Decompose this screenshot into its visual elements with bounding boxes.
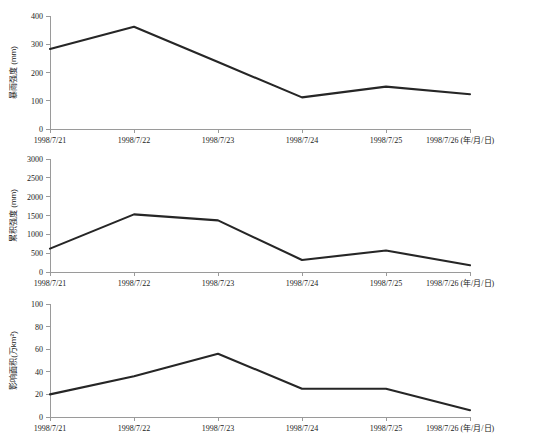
x-tick-label: 1998/7/25 (370, 279, 402, 288)
data-series-line (50, 214, 470, 265)
rainfall-time-series-figure: 01002003004001998/7/211998/7/221998/7/23… (0, 0, 555, 445)
y-axis-label: 影响面积(万km²) (8, 331, 18, 390)
y-tick-label: 20 (35, 390, 43, 399)
y-tick-label: 3000 (27, 155, 43, 164)
x-tick-label: 1998/7/22 (118, 424, 150, 433)
x-tick-label: 1998/7/23 (202, 424, 234, 433)
y-tick-label: 0 (39, 125, 43, 134)
chart-panel-rain-intensity: 01002003004001998/7/211998/7/221998/7/23… (0, 0, 555, 148)
y-tick-label: 1000 (27, 230, 43, 239)
x-tick-label: 1998/7/24 (286, 424, 318, 433)
x-tick-label: 1998/7/23 (202, 279, 234, 288)
y-tick-label: 60 (35, 345, 43, 354)
y-tick-label: 0 (39, 413, 43, 422)
data-series-line (50, 27, 470, 98)
y-tick-label: 100 (31, 300, 43, 309)
y-tick-label: 2000 (27, 193, 43, 202)
x-tick-label: 1998/7/26 (年/月/日) (426, 278, 495, 288)
chart-panel-affected-area: 0204060801001998/7/211998/7/221998/7/231… (0, 288, 555, 436)
data-series-line (50, 354, 470, 411)
y-tick-label: 2500 (27, 174, 43, 183)
y-tick-label: 40 (35, 368, 43, 377)
y-tick-label: 1500 (27, 212, 43, 221)
y-tick-label: 500 (31, 249, 43, 258)
y-tick-label: 300 (31, 40, 43, 49)
x-tick-label: 1998/7/22 (118, 279, 150, 288)
y-axis-label: 累积强度 (mm) (8, 189, 18, 242)
x-tick-label: 1998/7/21 (34, 279, 66, 288)
y-tick-label: 400 (31, 12, 43, 21)
x-tick-label: 1998/7/25 (370, 424, 402, 433)
y-tick-label: 0 (39, 268, 43, 277)
y-tick-label: 100 (31, 97, 43, 106)
x-tick-label: 1998/7/24 (286, 279, 318, 288)
y-tick-label: 80 (35, 323, 43, 332)
y-tick-label: 200 (31, 69, 43, 78)
chart-panel-cumulative-intensity: 0500100015002000250030001998/7/211998/7/… (0, 143, 555, 291)
x-tick-label: 1998/7/21 (34, 424, 66, 433)
y-axis-label: 暴雨强度 (mm) (8, 46, 18, 99)
x-tick-label: 1998/7/26 (年/月/日) (426, 423, 495, 433)
